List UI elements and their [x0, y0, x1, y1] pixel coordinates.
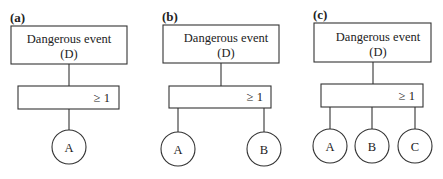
panel-b: (b) Dangerous event (D) ≥ 1 A B — [161, 9, 281, 166]
panel-label: (c) — [313, 7, 327, 22]
top-event-symbol: (D) — [60, 47, 77, 61]
top-event-title: Dangerous event — [336, 30, 421, 44]
fault-tree-figure: (a) Dangerous event (D) ≥ 1 A (b) Danger… — [0, 0, 443, 179]
panel-a: (a) Dangerous event (D) ≥ 1 A — [10, 10, 127, 164]
basic-event-label: A — [173, 143, 182, 157]
or-gate-label: ≥ 1 — [94, 91, 110, 105]
panel-c: (c) Dangerous event (D) ≥ 1 A B C — [313, 7, 432, 163]
or-gate-label: ≥ 1 — [247, 90, 263, 104]
or-gate-label: ≥ 1 — [399, 89, 415, 103]
panel-label: (a) — [10, 10, 25, 25]
basic-event-label: B — [368, 140, 376, 154]
basic-event-label: A — [64, 141, 73, 155]
top-event-symbol: (D) — [217, 46, 234, 60]
basic-event-label: A — [325, 140, 334, 154]
basic-event-label: B — [260, 143, 268, 157]
top-event-title: Dangerous event — [27, 32, 112, 46]
top-event-symbol: (D) — [369, 45, 386, 59]
panel-label: (b) — [162, 9, 178, 24]
basic-event-label: C — [411, 140, 419, 154]
top-event-title: Dangerous event — [184, 31, 269, 45]
